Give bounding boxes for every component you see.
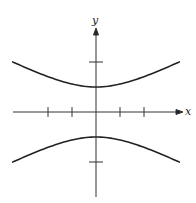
x-arrow-icon — [176, 110, 183, 115]
y-arrow-icon — [94, 28, 99, 35]
y-axis-label: y — [92, 14, 98, 27]
axes — [13, 28, 183, 197]
hyperbola-plot — [0, 0, 196, 203]
x-axis-label: x — [185, 105, 191, 118]
